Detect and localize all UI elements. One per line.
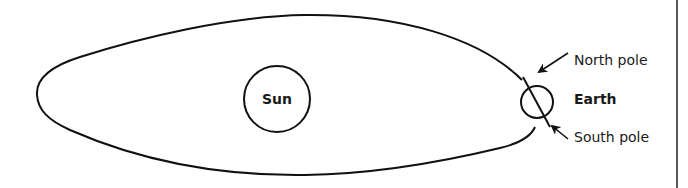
orbit-diagram: Sun North pole Earth South pole	[0, 0, 688, 188]
earth-label: Earth	[574, 91, 617, 107]
south-pole-arrow-icon	[552, 126, 568, 139]
north-pole-label: North pole	[574, 52, 648, 68]
north-pole-arrow-icon	[539, 53, 568, 72]
south-pole-label: South pole	[574, 129, 649, 145]
earth	[521, 77, 553, 127]
sun: Sun	[244, 66, 310, 132]
earth-axis-line	[523, 77, 550, 127]
sun-label: Sun	[262, 91, 292, 107]
